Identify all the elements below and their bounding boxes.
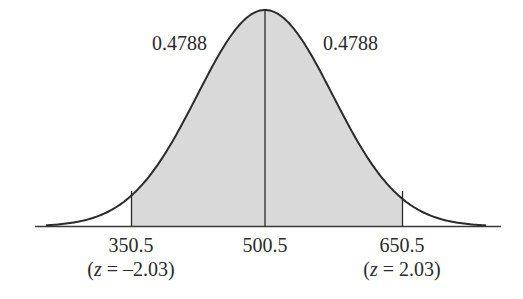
tick-label-left: 350.5	[109, 234, 154, 256]
normal-distribution-diagram: 0.4788 0.4788 350.5 500.5 650.5 (z = –2.…	[0, 0, 523, 299]
area-label-left: 0.4788	[152, 32, 207, 54]
z-label-left: (z = –2.03)	[87, 258, 174, 281]
z-label-right: (z = 2.03)	[363, 258, 440, 281]
tick-label-right: 650.5	[380, 234, 425, 256]
area-label-right: 0.4788	[323, 32, 378, 54]
tick-label-mid: 500.5	[243, 234, 288, 256]
